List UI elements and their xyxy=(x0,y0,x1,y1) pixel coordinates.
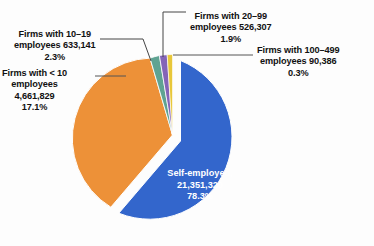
callout-100-499-percent: 0.3% xyxy=(257,68,339,79)
callout-lt-10: Firms with < 10 employees 4,661,829 17.1… xyxy=(2,68,67,114)
callout-10-19-line2: employees 633,141 xyxy=(14,40,96,51)
callout-lt-10-line2: employees xyxy=(2,79,67,90)
callout-20-99-line2: employees 526,307 xyxy=(190,22,272,33)
callout-20-99-line1: Firms with 20–99 xyxy=(190,11,272,22)
callout-100-499: Firms with 100–499 employees 90,386 0.3% xyxy=(257,45,339,79)
callout-10-19-percent: 2.3% xyxy=(14,52,96,63)
callout-100-499-line1: Firms with 100–499 xyxy=(257,45,339,56)
slice-label-self-employed-percent: 78.3% xyxy=(141,191,259,203)
callout-10-19-line1: Firms with 10–19 xyxy=(14,29,96,40)
slice-label-self-employed-name: Self-employed, xyxy=(141,168,259,180)
callout-100-499-line2: employees 90,386 xyxy=(257,56,339,67)
callout-10-19: Firms with 10–19 employees 633,141 2.3% xyxy=(14,29,96,63)
slice-label-self-employed-value: 21,351,320 xyxy=(141,180,259,192)
callout-lt-10-percent: 17.1% xyxy=(2,102,67,113)
slice-label-self-employed: Self-employed, 21,351,320 78.3% xyxy=(141,168,259,203)
leader-line-20-99 xyxy=(163,12,186,57)
pie-chart: Firms with 10–19 employees 633,141 2.3% … xyxy=(0,0,374,246)
callout-20-99-percent: 1.9% xyxy=(190,34,272,45)
leader-line-10-19 xyxy=(100,39,151,61)
callout-lt-10-line1: Firms with < 10 xyxy=(2,68,67,79)
callout-20-99: Firms with 20–99 employees 526,307 1.9% xyxy=(190,11,272,45)
callout-lt-10-value: 4,661,829 xyxy=(2,91,67,102)
